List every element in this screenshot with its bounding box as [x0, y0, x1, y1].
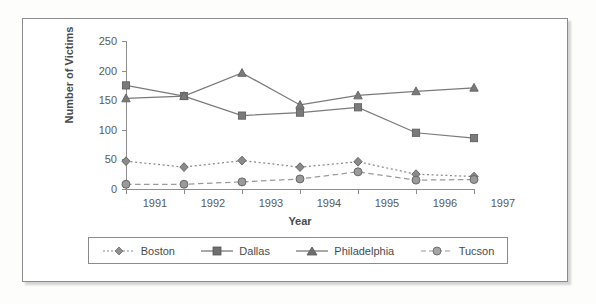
legend-marker-boston-icon — [102, 245, 136, 257]
legend-label-tucson: Tucson — [459, 245, 495, 257]
legend-marker-philadelphia-icon — [295, 245, 329, 257]
legend-item-dallas[interactable]: Dallas — [200, 245, 270, 257]
legend-marker-dallas-icon — [200, 245, 234, 257]
legend-item-philadelphia[interactable]: Philadelphia — [295, 245, 394, 257]
legend-label-boston: Boston — [141, 245, 175, 257]
series-layer — [122, 69, 478, 189]
legend-label-dallas: Dallas — [239, 245, 270, 257]
series-philadelphia — [122, 69, 478, 109]
legend-marker-tucson-icon — [420, 245, 454, 257]
chart-legend: Boston Dallas Philadelphia — [88, 237, 508, 264]
legend-item-tucson[interactable]: Tucson — [420, 245, 495, 257]
legend-item-boston[interactable]: Boston — [102, 245, 175, 257]
page-background: Number of Victims 250 200 150 100 50 0 — [0, 0, 596, 304]
chart-figure-frame: Number of Victims 250 200 150 100 50 0 — [22, 18, 568, 282]
legend-label-philadelphia: Philadelphia — [334, 245, 394, 257]
